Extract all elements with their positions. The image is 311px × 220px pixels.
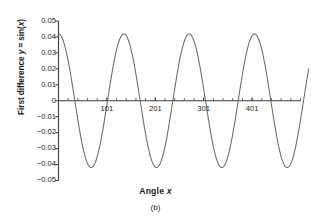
y-tick-label: 0.05	[20, 17, 56, 25]
x-tick-label: 201	[140, 105, 170, 113]
y-tick-label: −0.02	[20, 128, 56, 136]
x-tick-label: 401	[237, 105, 267, 113]
y-tick-label: −0.04	[20, 160, 56, 168]
x-tick-label: 101	[92, 105, 122, 113]
y-tick-label: 0.04	[20, 33, 56, 41]
figure-caption: (b)	[0, 203, 311, 212]
y-tick-label: −0.03	[20, 144, 56, 152]
y-tick-label: 0.03	[20, 49, 56, 57]
y-tick-label: −0.05	[20, 176, 56, 184]
axes-group	[55, 21, 300, 181]
y-tick-label: 0	[20, 97, 56, 105]
y-tick-label: 0.02	[20, 65, 56, 73]
figure-container: First difference y = sin(x) 0.050.040.03…	[0, 0, 311, 220]
y-tick-label: −0.01	[20, 113, 56, 121]
x-tick-label: 301	[189, 105, 219, 113]
x-axis-title-variable: x	[167, 186, 172, 196]
x-axis-title-text: Angle	[139, 186, 164, 196]
y-tick-label: 0.01	[20, 81, 56, 89]
x-axis-title: Angle x	[0, 186, 311, 196]
